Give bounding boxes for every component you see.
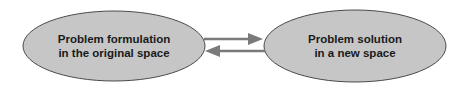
- arrow-left-icon: [205, 45, 265, 57]
- label-line: Problem formulation: [34, 32, 194, 46]
- label-line: in a new space: [275, 46, 435, 60]
- arrow-right-icon: [204, 33, 263, 45]
- node-original-label: Problem formulation in the original spac…: [34, 32, 194, 60]
- node-new-label: Problem solution in a new space: [275, 32, 435, 60]
- label-line: in the original space: [34, 46, 194, 60]
- label-line: Problem solution: [275, 32, 435, 46]
